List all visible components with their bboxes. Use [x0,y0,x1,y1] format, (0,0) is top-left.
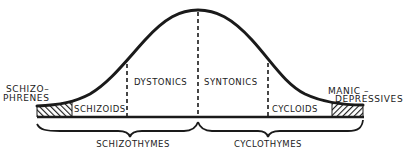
label-manic-depressives-line2: DEPRESSIVES [335,94,403,104]
label-cyclothymes: CYCLOTHYMES [234,139,302,149]
label-schizothymes: SCHIZOTHYMES [96,139,170,149]
label-schizoids: SCHIZOIDS [74,104,126,114]
label-schizophrenes-line2: PHRENES [3,93,49,103]
label-cycloids: CYCLOIDS [272,104,318,114]
label-syntonics: SYNTONICS [204,77,258,87]
distribution-diagram: SCHIZO– PHRENES SCHIZOIDS DYSTONICS SYNT… [0,0,410,157]
label-dystonics: DYSTONICS [134,77,187,87]
bell-curve [37,10,363,106]
schizothymes-brace [37,122,198,137]
cyclothymes-brace [198,120,363,137]
